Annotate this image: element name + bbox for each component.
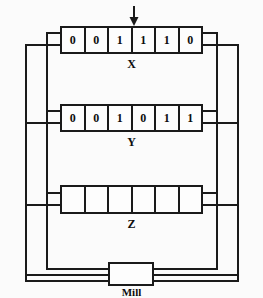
register-y-label: Y xyxy=(0,135,263,150)
register-x-cell: 0 xyxy=(86,28,110,52)
bus-y-right-stub xyxy=(201,110,218,112)
mill-box xyxy=(108,262,154,286)
register-x: 0 0 1 1 1 0 xyxy=(60,26,203,54)
bus-x-left-stub-lower xyxy=(25,44,62,46)
register-x-cell: 0 xyxy=(180,28,202,52)
down-arrow-icon xyxy=(128,6,140,26)
register-z-cell xyxy=(180,187,202,212)
bus-y-right-stub-lower xyxy=(201,122,239,124)
register-x-cell: 0 xyxy=(62,28,86,52)
register-y: 0 0 1 0 1 1 xyxy=(60,104,203,132)
register-x-cell: 1 xyxy=(156,28,180,52)
register-y-cell: 0 xyxy=(62,106,86,130)
register-z-cell xyxy=(62,187,86,212)
register-x-cell: 1 xyxy=(109,28,133,52)
bus-mill-right-stub xyxy=(152,274,239,276)
bus-z-left-stub-lower xyxy=(25,204,62,206)
bus-right-outer-vertical xyxy=(237,44,239,282)
bus-mill-left-stub xyxy=(25,274,110,276)
bus-left-outer-vertical xyxy=(25,44,27,282)
register-y-cell: 0 xyxy=(133,106,157,130)
register-z-cell xyxy=(86,187,110,212)
bus-z-right-stub xyxy=(201,192,218,194)
register-z-cell xyxy=(133,187,157,212)
bus-z-right-stub-lower xyxy=(201,204,239,206)
register-z-label: Z xyxy=(0,217,263,232)
register-mill-diagram: 0 0 1 1 1 0 X 0 0 1 0 1 1 Y Z Mill xyxy=(0,0,263,298)
register-y-cell: 0 xyxy=(86,106,110,130)
bus-x-right-stub xyxy=(201,32,218,34)
bus-y-left-stub-lower xyxy=(25,122,62,124)
mill-label: Mill xyxy=(0,286,263,298)
register-y-cell: 1 xyxy=(156,106,180,130)
register-y-cell: 1 xyxy=(109,106,133,130)
register-x-label: X xyxy=(0,57,263,72)
register-x-cell: 1 xyxy=(133,28,157,52)
register-z-cell xyxy=(109,187,133,212)
register-z-cell xyxy=(156,187,180,212)
register-z xyxy=(60,185,203,214)
register-y-cell: 1 xyxy=(180,106,202,130)
bus-x-right-stub-lower xyxy=(201,44,239,46)
